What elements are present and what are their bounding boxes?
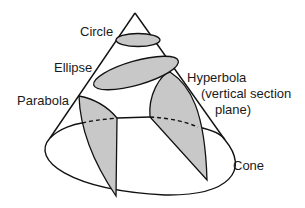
circle-section <box>116 34 160 47</box>
label-circle: Circle <box>80 24 113 39</box>
hyperbola-section <box>150 72 207 180</box>
label-hyperbola-line2: (vertical section <box>201 86 291 101</box>
label-parabola: Parabola <box>17 93 70 108</box>
conic-sections-diagram: Circle Ellipse Parabola Hyperbola (verti… <box>0 0 305 208</box>
label-ellipse: Ellipse <box>54 60 92 75</box>
section-plane-top-edge <box>117 117 150 118</box>
label-hyperbola-line3: plane) <box>215 102 251 117</box>
label-cone: Cone <box>233 158 264 173</box>
label-hyperbola-line1: Hyperbola <box>187 70 247 85</box>
parabola-section <box>79 96 117 196</box>
